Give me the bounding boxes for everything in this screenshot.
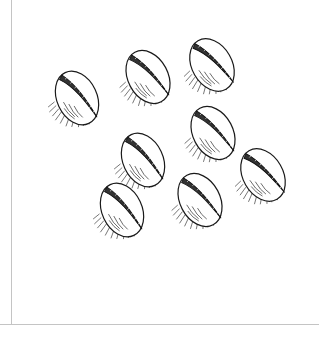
shell: [171, 31, 244, 106]
shell: [82, 176, 152, 249]
shell: [159, 166, 231, 240]
shell: [222, 141, 295, 216]
shell: [107, 43, 179, 117]
shell: [37, 64, 107, 137]
shell: [172, 99, 244, 173]
cowrie-shells-illustration: [0, 0, 319, 343]
